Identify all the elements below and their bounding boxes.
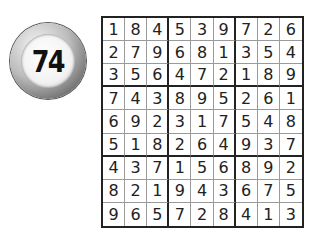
sudoku-cell[interactable]: 9	[169, 180, 191, 203]
sudoku-cell[interactable]: 2	[147, 110, 169, 133]
sudoku-cell[interactable]: 4	[214, 134, 236, 157]
sudoku-cell[interactable]: 4	[125, 87, 147, 110]
sudoku-cell[interactable]: 4	[103, 157, 125, 180]
sudoku-cell[interactable]: 9	[236, 134, 258, 157]
sudoku-cell[interactable]: 2	[169, 134, 191, 157]
sudoku-cell[interactable]: 9	[191, 87, 213, 110]
sudoku-cell[interactable]: 7	[191, 64, 213, 87]
sudoku-cell[interactable]: 3	[214, 180, 236, 203]
sudoku-cell[interactable]: 6	[258, 87, 280, 110]
sudoku-cell[interactable]: 7	[236, 18, 258, 41]
sudoku-cell[interactable]: 1	[125, 134, 147, 157]
sudoku-cell[interactable]: 8	[169, 87, 191, 110]
sudoku-cell[interactable]: 1	[258, 203, 280, 226]
sudoku-cell[interactable]: 5	[169, 18, 191, 41]
puzzle-number-badge: 74	[10, 23, 86, 99]
sudoku-cell[interactable]: 6	[214, 157, 236, 180]
sudoku-cell[interactable]: 3	[258, 134, 280, 157]
sudoku-cell[interactable]: 4	[236, 203, 258, 226]
sudoku-cell[interactable]: 2	[236, 87, 258, 110]
sudoku-cell[interactable]: 6	[125, 203, 147, 226]
sudoku-cell[interactable]: 5	[125, 64, 147, 87]
sudoku-cell[interactable]: 4	[191, 180, 213, 203]
badge-inner-circle: 74	[21, 34, 75, 88]
sudoku-cell[interactable]: 4	[169, 64, 191, 87]
sudoku-cell[interactable]: 1	[103, 18, 125, 41]
sudoku-cell[interactable]: 4	[280, 41, 302, 64]
sudoku-cell[interactable]: 7	[169, 203, 191, 226]
sudoku-cell[interactable]: 1	[214, 41, 236, 64]
sudoku-cell[interactable]: 3	[103, 64, 125, 87]
sudoku-grid: 1845397262796813543564721897438952616923…	[101, 16, 304, 228]
sudoku-cell[interactable]: 1	[236, 64, 258, 87]
sudoku-cell[interactable]: 9	[103, 203, 125, 226]
sudoku-cell[interactable]: 5	[236, 110, 258, 133]
sudoku-cell[interactable]: 7	[258, 180, 280, 203]
sudoku-cell[interactable]: 2	[258, 18, 280, 41]
sudoku-cell[interactable]: 1	[147, 180, 169, 203]
sudoku-cell[interactable]: 2	[125, 180, 147, 203]
sudoku-cell[interactable]: 6	[236, 180, 258, 203]
sudoku-cell[interactable]: 2	[280, 157, 302, 180]
sudoku-cell[interactable]: 5	[147, 203, 169, 226]
sudoku-cell[interactable]: 7	[280, 134, 302, 157]
sudoku-cell[interactable]: 6	[280, 18, 302, 41]
sudoku-cell[interactable]: 9	[258, 157, 280, 180]
sudoku-cell[interactable]: 6	[169, 41, 191, 64]
sudoku-cell[interactable]: 7	[147, 157, 169, 180]
sudoku-cell[interactable]: 8	[214, 203, 236, 226]
sudoku-cell[interactable]: 3	[191, 18, 213, 41]
sudoku-cell[interactable]: 1	[169, 157, 191, 180]
sudoku-cell[interactable]: 8	[280, 110, 302, 133]
sudoku-cell[interactable]: 7	[214, 110, 236, 133]
sudoku-cell[interactable]: 6	[103, 110, 125, 133]
sudoku-cell[interactable]: 3	[147, 87, 169, 110]
sudoku-cell[interactable]: 5	[191, 157, 213, 180]
sudoku-cell[interactable]: 6	[191, 134, 213, 157]
sudoku-cell[interactable]: 8	[147, 134, 169, 157]
sudoku-cell[interactable]: 1	[191, 110, 213, 133]
sudoku-cell[interactable]: 2	[103, 41, 125, 64]
sudoku-cell[interactable]: 3	[280, 203, 302, 226]
sudoku-cell[interactable]: 3	[236, 41, 258, 64]
sudoku-cell[interactable]: 9	[147, 41, 169, 64]
sudoku-cell[interactable]: 8	[236, 157, 258, 180]
sudoku-cell[interactable]: 9	[280, 64, 302, 87]
sudoku-cell[interactable]: 9	[125, 110, 147, 133]
sudoku-cell[interactable]: 2	[191, 203, 213, 226]
sudoku-cell[interactable]: 5	[258, 41, 280, 64]
sudoku-cell[interactable]: 8	[191, 41, 213, 64]
sudoku-cell[interactable]: 3	[169, 110, 191, 133]
sudoku-cell[interactable]: 8	[125, 18, 147, 41]
sudoku-cell[interactable]: 4	[258, 110, 280, 133]
sudoku-cell[interactable]: 7	[125, 41, 147, 64]
sudoku-cell[interactable]: 6	[147, 64, 169, 87]
sudoku-cell[interactable]: 7	[103, 87, 125, 110]
sudoku-cell[interactable]: 8	[103, 180, 125, 203]
sudoku-cell[interactable]: 5	[103, 134, 125, 157]
sudoku-cell[interactable]: 3	[125, 157, 147, 180]
sudoku-cell[interactable]: 1	[280, 87, 302, 110]
sudoku-cell[interactable]: 2	[214, 64, 236, 87]
sudoku-cell[interactable]: 4	[147, 18, 169, 41]
sudoku-cell[interactable]: 8	[258, 64, 280, 87]
sudoku-cell[interactable]: 9	[214, 18, 236, 41]
puzzle-number: 74	[32, 44, 64, 79]
sudoku-cell[interactable]: 5	[214, 87, 236, 110]
sudoku-cell[interactable]: 5	[280, 180, 302, 203]
